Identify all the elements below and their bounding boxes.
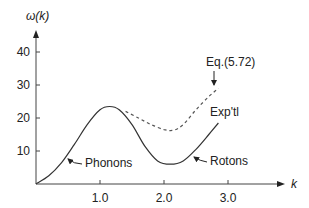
y-tick-label: 20	[17, 111, 31, 125]
x-axis-arrow-icon	[277, 181, 285, 187]
x-tick-label: 3.0	[220, 191, 237, 205]
annotation-rotons: Rotons	[210, 154, 248, 168]
y-tick-label: 40	[17, 45, 31, 59]
annotation-eq-5-72: Eq.(5.72)	[206, 55, 255, 69]
annotation-rotons-arrow	[194, 157, 207, 162]
x-axis-label: k	[291, 177, 298, 191]
series-exptl-line	[36, 107, 218, 185]
y-axis-label: ω(k)	[26, 9, 49, 23]
series-eq-5-72-line	[126, 88, 219, 130]
y-axis-arrow-icon	[33, 30, 39, 38]
x-tick-label: 1.0	[92, 191, 109, 205]
annotation-exptl: Exp'tl	[210, 105, 239, 119]
annotation-phonons: Phonons	[85, 156, 132, 170]
annotation-phonons-arrow	[68, 159, 82, 164]
y-tick-label: 10	[17, 144, 31, 158]
y-tick-label: 30	[17, 78, 31, 92]
x-tick-label: 2.0	[156, 191, 173, 205]
dispersion-chart: ω(k) k 1.02.03.010203040 Eq.(5.72) Exp't…	[0, 0, 309, 208]
